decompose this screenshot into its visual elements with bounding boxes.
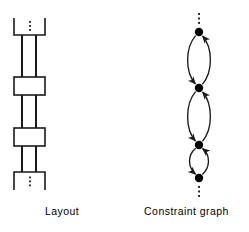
constraint-graph-diagram xyxy=(124,0,249,200)
graph-node-1 xyxy=(195,28,203,36)
edge-pair-3-4 xyxy=(190,148,209,174)
layout-cell-1 xyxy=(14,77,45,95)
layout-cell-2 xyxy=(14,128,45,146)
edge-2-to-3 xyxy=(188,92,196,141)
layout-top-ellipsis xyxy=(29,21,31,31)
edge-pair-1-2 xyxy=(188,36,211,85)
edge-3-to-4 xyxy=(190,148,196,174)
layout-bottom-ellipsis xyxy=(29,177,31,187)
layout-diagram xyxy=(0,0,124,200)
edge-pair-2-3 xyxy=(188,92,211,142)
edge-4-to-3 xyxy=(202,149,208,175)
constraint-graph-panel: Constraint graph xyxy=(124,0,249,232)
graph-node-4 xyxy=(195,174,203,182)
figure-root: Layout xyxy=(0,0,249,232)
layout-panel: Layout xyxy=(0,0,124,232)
graph-top-ellipsis xyxy=(198,13,200,24)
layout-caption: Layout xyxy=(0,205,124,217)
layout-rails xyxy=(22,35,36,172)
graph-bottom-ellipsis xyxy=(198,186,200,197)
edge-2-to-1 xyxy=(202,36,210,84)
edge-3-to-2 xyxy=(202,92,210,141)
constraint-graph-caption: Constraint graph xyxy=(124,205,249,217)
graph-nodes xyxy=(195,28,203,182)
edge-1-to-2 xyxy=(188,36,196,84)
graph-node-2 xyxy=(195,84,203,92)
graph-node-3 xyxy=(195,141,203,149)
